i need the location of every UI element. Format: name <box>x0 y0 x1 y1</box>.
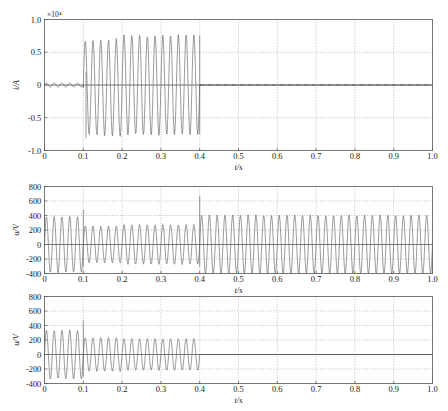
x-tick-label: 1.0 <box>427 152 437 161</box>
y-tick-label: 200 <box>29 336 42 345</box>
y-tick-label: 0 <box>37 351 41 360</box>
x-tick-label: 0.1 <box>78 275 88 284</box>
y-axis-label: u/V <box>12 223 21 236</box>
y-tick-label: 400 <box>29 322 42 331</box>
panel-voltage-lower: 00.10.20.30.40.50.60.70.80.91.0-400-2000… <box>12 293 438 406</box>
x-axis-label: t/s <box>235 163 243 172</box>
x-tick-label: 0.5 <box>233 275 243 284</box>
y-tick-label: 800 <box>29 293 42 302</box>
y-tick-label: 0.5 <box>31 48 41 57</box>
x-tick-label: 1.0 <box>427 385 437 394</box>
x-tick-label: 0.9 <box>388 152 398 161</box>
x-tick-label: 0.4 <box>194 385 205 394</box>
y-axis-exponent-label: ×10⁴ <box>47 10 62 19</box>
x-tick-label: 0.6 <box>272 275 282 284</box>
x-axis-label: t/s <box>235 286 243 295</box>
x-tick-label: 0.6 <box>272 152 282 161</box>
y-tick-label: -200 <box>26 255 41 264</box>
x-tick-label: 0.3 <box>156 152 166 161</box>
x-tick-label: 0.7 <box>311 385 321 394</box>
panel-current: 00.10.20.30.40.50.60.70.80.91.0-1.0-0.50… <box>12 10 438 172</box>
x-tick-label: 0.2 <box>117 152 127 161</box>
x-tick-label: 0.4 <box>194 152 205 161</box>
fault-current-trace-group <box>45 35 433 138</box>
x-tick-label: 0.8 <box>350 275 360 284</box>
x-tick-label: 1.0 <box>427 275 437 284</box>
y-tick-label: -200 <box>26 365 41 374</box>
y-tick-label: 400 <box>29 212 42 221</box>
x-tick-label: 0.5 <box>233 152 243 161</box>
x-tick-label: 0.3 <box>156 385 166 394</box>
y-tick-label: 0 <box>37 81 41 90</box>
x-tick-label: 0.2 <box>117 385 127 394</box>
x-tick-label: 0.8 <box>350 385 360 394</box>
y-tick-label: 1.0 <box>31 16 41 25</box>
y-tick-label: 200 <box>29 226 42 235</box>
x-tick-label: 0.6 <box>272 385 282 394</box>
figure-three-panel-waveforms: 00.10.20.30.40.50.60.70.80.91.0-1.0-0.50… <box>0 0 448 411</box>
x-tick-label: 0.9 <box>388 275 398 284</box>
x-tick-label: 0.7 <box>311 275 321 284</box>
y-tick-label: -0.5 <box>28 114 41 123</box>
y-axis-label: i/A <box>12 79 21 90</box>
x-tick-label: 0.4 <box>194 275 205 284</box>
x-tick-label: 0 <box>42 385 46 394</box>
x-tick-label: 0.1 <box>78 385 88 394</box>
x-tick-label: 0.5 <box>233 385 243 394</box>
y-tick-label: 600 <box>29 197 42 206</box>
fault-current-clipped <box>45 35 433 138</box>
y-tick-label: -1.0 <box>28 147 41 156</box>
waveform-figure-svg: 00.10.20.30.40.50.60.70.80.91.0-1.0-0.50… <box>0 0 448 411</box>
x-tick-label: 0.8 <box>350 152 360 161</box>
x-tick-label: 0.3 <box>156 275 166 284</box>
y-tick-label: -400 <box>26 380 41 389</box>
y-axis-label: u/V <box>12 333 21 346</box>
x-tick-label: 0.7 <box>311 152 321 161</box>
x-tick-label: 0.9 <box>388 385 398 394</box>
x-tick-label: 0 <box>42 275 46 284</box>
x-tick-label: 0.2 <box>117 275 127 284</box>
y-tick-label: 0 <box>37 241 41 250</box>
y-tick-label: 800 <box>29 183 42 192</box>
x-tick-label: 0.1 <box>78 152 88 161</box>
y-tick-label: -400 <box>26 270 41 279</box>
x-tick-label: 0 <box>42 152 46 161</box>
y-tick-label: 600 <box>29 307 42 316</box>
x-axis-label: t/s <box>235 396 243 405</box>
